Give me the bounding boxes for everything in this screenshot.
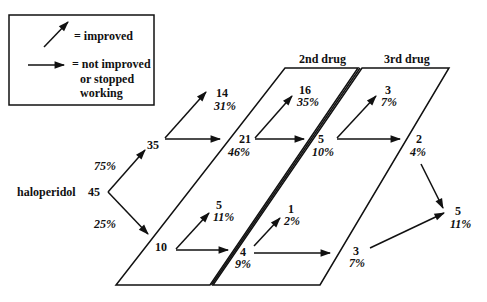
legend: = improved = not improved or stopped wor… (9, 15, 154, 105)
third-drug-label: 3rd drug (384, 52, 430, 66)
arrow-5-to-3 (337, 96, 376, 138)
arrow-3-to-5 (370, 213, 444, 248)
arrow-4-to-1 (254, 218, 280, 246)
legend-not-improved-1: = not improved (72, 57, 151, 71)
arrow-2-to-5 (421, 164, 443, 208)
pct-21: 46% (227, 145, 250, 159)
second-drug-label: 2nd drug (299, 52, 346, 66)
pct-4: 9% (235, 257, 251, 271)
node-5-second: 5 (318, 132, 324, 146)
pct-16: 35% (296, 95, 319, 109)
arrow-21-to-16 (255, 96, 292, 138)
pct-75: 75% (94, 159, 116, 173)
pct-1: 2% (283, 214, 300, 228)
treatment-flow-diagram: = improved = not improved or stopped wor… (0, 0, 487, 302)
pct-3-third-top: 7% (381, 95, 397, 109)
start-count: 45 (88, 185, 100, 199)
node-10: 10 (155, 240, 167, 254)
legend-not-improved-2: or stopped (80, 72, 134, 86)
pct-25: 25% (93, 217, 116, 231)
node-21: 21 (239, 132, 251, 146)
legend-improved: = improved (74, 29, 133, 43)
arrow-10-to-5 (176, 213, 209, 249)
pct-3-bottom: 7% (349, 256, 365, 270)
pct-5-second: 10% (312, 145, 334, 159)
pct-14: 31% (213, 99, 236, 113)
improved-arrow-icon (44, 22, 68, 47)
pct-5-final: 11% (450, 217, 471, 231)
pct-5-second-bottom: 11% (213, 210, 234, 224)
node-5-final: 5 (455, 204, 461, 218)
arrow-35-to-14 (165, 92, 206, 138)
node-2: 2 (416, 132, 422, 146)
start-drug-label: haloperidol (17, 185, 76, 199)
legend-not-improved-3: working (80, 86, 123, 100)
pct-2: 4% (409, 145, 426, 159)
node-14: 14 (216, 86, 228, 100)
third-drug-panel (213, 68, 449, 285)
node-35: 35 (147, 138, 159, 152)
